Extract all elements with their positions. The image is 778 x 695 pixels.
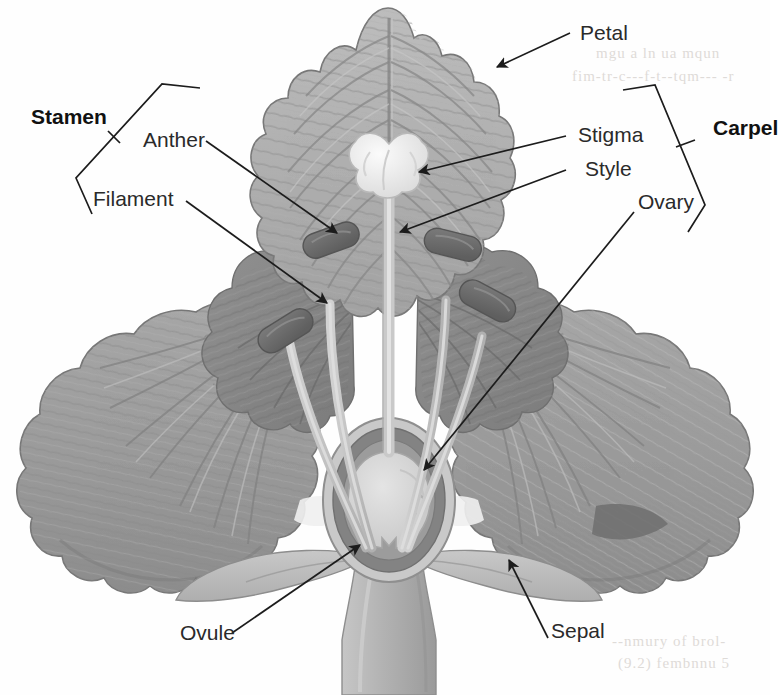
label-ovary: Ovary — [638, 191, 694, 212]
leader-ovary — [424, 212, 634, 470]
bleed-through-line-4: (9.2) fembnnu 5 — [618, 655, 730, 672]
label-stamen: Stamen — [31, 106, 107, 127]
leader-stigma — [419, 136, 566, 172]
label-filament: Filament — [93, 188, 174, 209]
label-carpel: Carpel — [713, 117, 778, 138]
label-petal: Petal — [580, 22, 628, 43]
bleed-through-line-2: fim-tr-c---f-t--tqm--- -r — [572, 68, 735, 85]
label-anther: Anther — [143, 129, 205, 150]
leader-style — [400, 170, 566, 232]
label-style: Style — [585, 158, 632, 179]
label-stigma: Stigma — [578, 124, 643, 145]
leader-petal — [497, 33, 570, 67]
leader-ovule — [232, 545, 360, 633]
leader-sepal — [509, 560, 548, 638]
leader-anther — [206, 141, 337, 233]
leader-filament — [186, 201, 327, 303]
bleed-through-line-3: --nmury of brol- — [612, 633, 726, 650]
bleed-through-line-1: mgu a ln ua mqun — [596, 45, 720, 62]
label-sepal: Sepal — [551, 620, 605, 641]
label-ovule: Ovule — [180, 622, 235, 643]
